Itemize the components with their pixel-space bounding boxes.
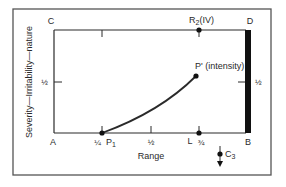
y-axis-label: Severity—Irritability—nature [24,26,34,138]
y-tick-right-half-label: ½ [255,78,262,87]
movement-diagram: C D A B ¼ ½ ¾ P1 L R2(IV) P' (intensity)… [0,0,286,187]
l-point [196,130,201,135]
p-prime-point [193,73,198,78]
corner-a-label: A [50,137,56,147]
r2-point [196,27,201,32]
p1-point [99,130,104,135]
down-arrow-icon [217,161,223,167]
c3-label: C3 [225,149,236,160]
corner-d-label: D [247,16,254,26]
corner-c-label: C [48,16,55,26]
y-tick-left-half-label: ½ [41,78,48,87]
x-tick-three-quarter-label: ¾ [198,138,205,147]
x-axis-label: Range [138,151,165,161]
x-tick-quarter-label: ¼ [94,138,101,147]
c3-point [217,151,222,156]
pain-curve [102,76,196,133]
limit-bar-db [245,30,251,133]
x-tick-half-label: ½ [148,138,155,147]
p1-label: P1 [106,137,116,148]
r2-label: R2(IV) [189,15,214,26]
l-label: L [187,136,192,146]
p-prime-label: P' (intensity) [195,61,244,71]
corner-b-label: B [245,137,251,147]
